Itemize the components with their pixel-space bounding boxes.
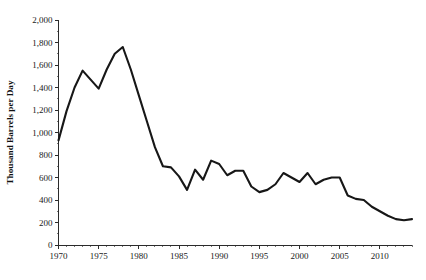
x-axis-tick-labels: 197019751980198519901995200020052010	[50, 251, 390, 261]
y-tick-label: 1,600	[32, 60, 53, 70]
line-chart-canvas: 02004006008001,0001,2001,4001,6001,8002,…	[0, 0, 426, 280]
x-tick-label: 1990	[210, 251, 229, 261]
y-axis-title: Thousand Barrels per Day	[5, 80, 15, 184]
y-tick-label: 1,800	[32, 38, 53, 48]
x-tick-label: 2000	[291, 251, 310, 261]
y-tick-label: 800	[39, 150, 53, 160]
y-tick-label: 200	[39, 218, 53, 228]
y-tick-label: 1,400	[32, 83, 53, 93]
y-tick-label: 2,000	[32, 15, 53, 25]
plot-background	[0, 0, 426, 280]
y-tick-label: 600	[39, 173, 53, 183]
x-tick-label: 1970	[50, 251, 69, 261]
x-tick-label: 1995	[250, 251, 269, 261]
y-tick-label: 400	[39, 195, 53, 205]
y-tick-label: 0	[48, 240, 53, 250]
y-tick-label: 1,200	[32, 105, 53, 115]
x-tick-label: 2010	[371, 251, 390, 261]
y-tick-label: 1,000	[32, 128, 53, 138]
x-tick-label: 1985	[170, 251, 189, 261]
x-tick-label: 2005	[331, 251, 350, 261]
x-tick-label: 1980	[130, 251, 149, 261]
chart-figure: 02004006008001,0001,2001,4001,6001,8002,…	[0, 0, 426, 280]
x-tick-label: 1975	[90, 251, 109, 261]
